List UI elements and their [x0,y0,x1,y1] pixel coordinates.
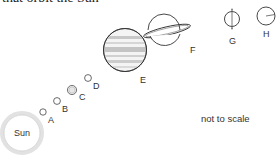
planet-g-label: G [229,36,236,46]
planet-c: C [67,85,86,102]
sun: Sun [2,113,42,153]
planet-f-label: F [190,45,196,55]
solar-system-diagram: Sun A B C D E [0,0,278,156]
planet-a: A [40,109,54,125]
planet-d: D [85,75,100,91]
planet-f: F [143,14,196,55]
planet-b-label: B [62,104,68,114]
planet-e: E [100,29,150,86]
planet-h: H [257,7,275,39]
planet-h-label: H [263,29,270,39]
not-to-scale-note: not to scale [201,113,250,124]
planet-g: G [225,9,240,47]
planet-a-label: A [48,115,54,125]
planet-b: B [54,98,68,114]
planet-c-label: C [79,92,86,102]
planet-d-label: D [93,81,100,91]
sun-label: Sun [14,128,30,138]
planet-e-label: E [140,75,146,85]
